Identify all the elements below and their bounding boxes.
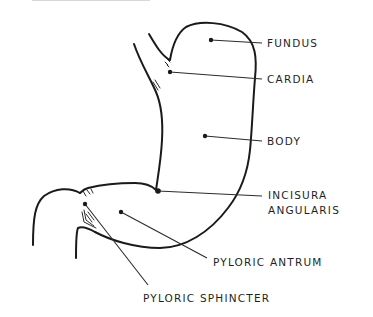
dot-cardia	[168, 70, 172, 74]
leader-body	[205, 136, 262, 141]
dot-fundus	[209, 38, 213, 42]
leader-incisura	[158, 191, 262, 196]
dot-incisura	[155, 188, 161, 194]
label-body: BODY	[267, 135, 301, 147]
leader-cardia	[170, 72, 262, 79]
lesser-curvature-antrum	[80, 183, 156, 193]
duodenum-lower-wall	[76, 227, 95, 258]
leader-fundus	[211, 40, 262, 43]
label-cardia: CARDIA	[267, 73, 314, 85]
greater-curvature	[95, 23, 256, 248]
label-fundus: FUNDUS	[267, 37, 318, 49]
label-pyloric-sphincter: PYLORIC SPHINCTER	[143, 292, 270, 304]
dot-antrum	[119, 210, 123, 214]
pyloric-sphincter-ring	[82, 210, 96, 228]
label-angularis: ANGULARIS	[268, 204, 340, 216]
label-incisura: INCISURA	[268, 189, 327, 201]
leader-antrum	[121, 212, 207, 258]
dot-sphincter	[83, 202, 87, 206]
label-pyloric-antrum: PYLORIC ANTRUM	[213, 256, 323, 268]
leader-sphincter	[85, 204, 148, 285]
esophagus-left-wall	[134, 44, 162, 190]
dot-body	[203, 134, 207, 138]
duodenum-upper-wall	[33, 189, 80, 245]
